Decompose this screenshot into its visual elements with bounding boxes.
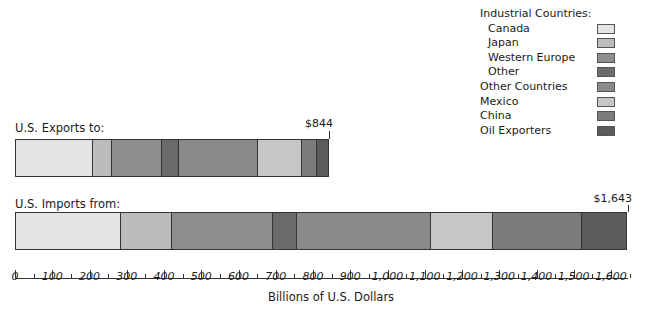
legend: Industrial Countries:CanadaJapanWestern … xyxy=(480,7,640,138)
legend-item: Mexico xyxy=(480,95,640,110)
minor-tick xyxy=(369,274,370,278)
minor-tick xyxy=(34,274,35,278)
bar-segment-canada xyxy=(16,140,93,176)
minor-tick xyxy=(443,274,444,278)
legend-item-label: Other Countries xyxy=(480,80,567,93)
exports-total-tick xyxy=(329,131,330,139)
tick-label: 700 xyxy=(265,270,286,283)
tick-label: 1,200 xyxy=(446,270,478,283)
legend-swatch xyxy=(597,82,615,92)
legend-item-label: Oil Exporters xyxy=(480,124,551,137)
minor-tick xyxy=(592,274,593,278)
exports-total-label: $844 xyxy=(305,117,333,130)
imports-bar xyxy=(15,212,627,250)
tick-label: 1,100 xyxy=(409,270,441,283)
legend-item: Oil Exporters xyxy=(480,124,640,139)
legend-item: Canada xyxy=(480,22,640,37)
minor-tick xyxy=(481,274,482,278)
minor-tick xyxy=(294,274,295,278)
bar-segment-other-countries xyxy=(179,140,258,176)
tick-label: 1,600 xyxy=(595,270,627,283)
legend-item-label: Canada xyxy=(480,22,530,35)
bar-segment-oil-exporters xyxy=(317,140,328,176)
x-axis-title: Billions of U.S. Dollars xyxy=(268,290,394,304)
legend-swatch xyxy=(597,53,615,63)
tick-label: 1,000 xyxy=(372,270,404,283)
minor-tick xyxy=(71,274,72,278)
minor-tick xyxy=(257,274,258,278)
minor-tick xyxy=(406,274,407,278)
exports-label: U.S. Exports to: xyxy=(15,121,104,135)
tick-label: 900 xyxy=(340,270,361,283)
legend-item: Industrial Countries: xyxy=(480,7,640,22)
bar-segment-china xyxy=(302,140,317,176)
imports-label: U.S. Imports from: xyxy=(15,197,120,211)
legend-swatch xyxy=(597,67,615,77)
legend-swatch xyxy=(597,24,615,34)
minor-tick xyxy=(630,274,631,278)
bar-segment-oil-exporters xyxy=(582,213,626,249)
legend-item: Other Countries xyxy=(480,80,640,95)
tick-label: 300 xyxy=(116,270,137,283)
legend-item-label: China xyxy=(480,109,511,122)
legend-item: Other xyxy=(480,65,640,80)
minor-tick xyxy=(183,274,184,278)
imports-total-tick xyxy=(628,205,629,212)
bar-segment-mexico xyxy=(258,140,302,176)
imports-total-label: $1,643 xyxy=(594,192,633,205)
tick-label: 100 xyxy=(42,270,63,283)
bar-segment-canada xyxy=(16,213,121,249)
tick-label: 400 xyxy=(154,270,175,283)
tick-label: 600 xyxy=(228,270,249,283)
tick-label: 800 xyxy=(303,270,324,283)
legend-swatch xyxy=(597,38,615,48)
legend-item-label: Western Europe xyxy=(480,51,575,64)
bar-segment-japan xyxy=(121,213,172,249)
tick-label: 1,500 xyxy=(558,270,590,283)
legend-swatch xyxy=(597,111,615,121)
bar-segment-western-europe xyxy=(172,213,274,249)
legend-item-label: Industrial Countries: xyxy=(480,7,592,20)
tick-label: 1,300 xyxy=(484,270,516,283)
tick-label: 500 xyxy=(191,270,212,283)
bar-segment-other xyxy=(273,213,297,249)
minor-tick xyxy=(108,274,109,278)
legend-swatch xyxy=(597,97,615,107)
legend-item: Japan xyxy=(480,36,640,51)
bar-segment-japan xyxy=(93,140,113,176)
bar-segment-mexico xyxy=(431,213,493,249)
legend-swatch xyxy=(597,126,615,136)
bar-segment-other xyxy=(162,140,179,176)
exports-bar xyxy=(15,139,329,177)
legend-item: China xyxy=(480,109,640,124)
tick-label: 0 xyxy=(12,270,19,283)
tick-label: 200 xyxy=(79,270,100,283)
minor-tick xyxy=(220,274,221,278)
minor-tick xyxy=(332,274,333,278)
legend-item-label: Other xyxy=(480,65,519,78)
legend-item-label: Japan xyxy=(480,36,519,49)
bar-segment-other-countries xyxy=(297,213,431,249)
legend-item-label: Mexico xyxy=(480,95,518,108)
bar-segment-china xyxy=(493,213,582,249)
minor-tick xyxy=(145,274,146,278)
minor-tick xyxy=(518,274,519,278)
tick-label: 1,400 xyxy=(521,270,553,283)
minor-tick xyxy=(555,274,556,278)
legend-item: Western Europe xyxy=(480,51,640,66)
bar-segment-western-europe xyxy=(112,140,162,176)
